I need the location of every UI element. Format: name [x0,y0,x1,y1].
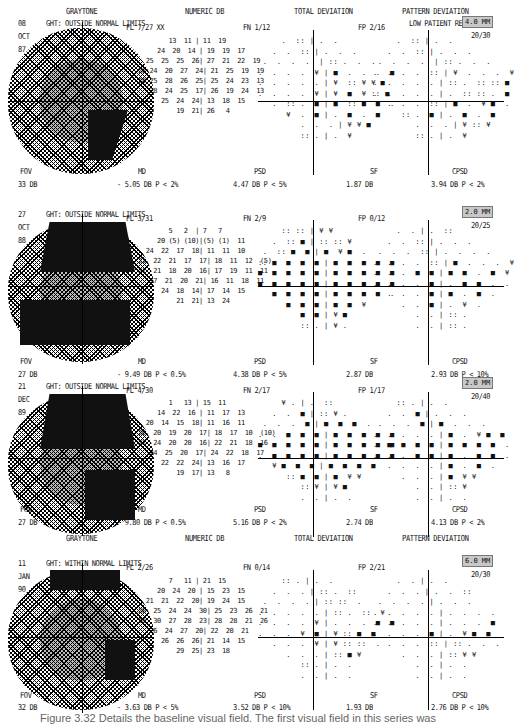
md-label: MD [138,357,146,366]
false-positives: FP 1/17 [358,386,385,395]
pattern-dev-vertical-axis [428,392,429,537]
graytone-scotoma-superior [50,570,120,590]
short-term-fluctuation: 2.74 DB [346,518,373,527]
horizontal-meridian [8,101,154,102]
fovea-label: FOV [20,505,31,514]
fovea-value: 27 DB [18,370,37,379]
sf-label: SF [370,357,378,366]
numeric-db-grid: 1 13 | 15 11 14 22 16 | 11 17 13 20 14 1… [138,398,275,478]
sf-label: SF [370,505,378,514]
fixation-losses: FL 3/31 [126,214,153,223]
pattern-std-deviation: 4.38 DB P < 5% [233,370,286,379]
cpsd-label: CPSD [452,357,467,366]
cpsd-label: CPSD [452,691,467,700]
pattern-deviation-grid: :: . | . . . . ■ | . . . . . . ■ | ■ . .… [373,398,510,503]
false-negatives: FN 2/9 [243,214,266,223]
short-term-fluctuation: 1.87 DB [346,180,373,189]
test-month: JAN [18,572,29,581]
graytone-scotoma-inferior [85,470,135,520]
test-day: 08 [18,19,26,28]
fixation-losses: FL 4/30 [126,386,153,395]
total-dev-vertical-axis [313,570,314,710]
test-year: 89 [18,408,26,417]
graytone-scotoma-superior [40,222,135,272]
total-dev-vertical-axis [313,220,314,365]
fovea-label: FOV [20,691,31,700]
graytone-header: GRAYTONE [66,7,97,17]
pattern-deviation-grid: . :: | . . . . :: | . . . . . . . | :: .… [373,36,514,141]
numeric-db-grid: 5 2 | 7 7 20 (5) (10)|(5) (1) 11 24 22 1… [138,226,272,306]
deviation-horizontal-axis [258,637,504,638]
numeric-db-header-2: NUMERIC DB [185,534,224,544]
numeric-db-grid: 7 11 | 21 15 20 24 20 | 15 23 15 21 21 2… [138,576,268,656]
short-term-fluctuation: 2.87 DB [346,370,373,379]
graytone-scotoma-superior [40,394,135,449]
horizontal-meridian [8,637,154,638]
pattern-std-deviation: 5.16 DB P < 2% [233,518,286,527]
md-label: MD [138,691,146,700]
fovea-label: FOV [20,357,31,366]
numeric-db-grid: 13 11 | 11 19 24 20 14 | 19 19 17 25 25 … [138,36,264,116]
graytone-header-2: GRAYTONE [66,534,97,544]
pupil-size: 2.0 MM [462,206,493,218]
test-month: OCT [18,32,29,41]
pattern-deviation-grid: . . | . . . . . | . . :: . . . . | . . .… [373,576,500,681]
graytone-scotoma-inferior [105,640,135,680]
psd-label: PSD [254,505,265,514]
vertical-meridian [82,386,83,536]
test-month: OCT [18,223,29,232]
test-day: 21 [18,382,26,391]
total-dev-vertical-axis [313,392,314,537]
pattern-dev-vertical-axis [428,30,429,175]
deviation-horizontal-axis [258,286,504,287]
cpsd-label: CPSD [452,505,467,514]
pupil-size: 2.0 MM [462,377,493,389]
mean-deviation: - 5.05 DB P < 2% [117,180,178,189]
fixation-losses: FL 7/27 XX [126,23,164,32]
test-year: 88 [18,236,26,245]
psd-label: PSD [254,691,265,700]
corrected-psd: 4.13 DB P < 2% [431,518,484,527]
pattern-deviation-header-2: PATTERN DEVIATION [402,534,469,544]
pattern-dev-vertical-axis [428,570,429,710]
cpsd-label: CPSD [452,167,467,176]
pupil-size: 6.0 MM [462,555,493,567]
horizontal-meridian [8,286,154,287]
false-negatives: FN 1/12 [243,23,270,32]
pattern-std-deviation: 4.47 DB P < 5% [233,180,286,189]
vertical-meridian [82,563,83,713]
psd-label: PSD [254,167,265,176]
sf-label: SF [370,691,378,700]
test-day: 11 [18,559,26,568]
horizontal-meridian [8,458,154,459]
total-deviation-header-2: TOTAL DEVIATION [294,534,353,544]
fovea-value: 27 DB [18,518,37,527]
fovea-label: FOV [20,167,31,176]
false-positives: FP 2/16 [358,23,385,32]
graytone-scotoma-inferior [20,300,130,345]
pattern-deviation-header: PATTERN DEVIATION [402,7,469,17]
test-day: 27 [18,210,26,219]
pattern-deviation-grid: . . | . :: . . :: | . . . . . . :: | . .… [373,226,514,331]
mean-deviation: - 9.80 DB P < 0.5% [117,518,186,527]
vertical-meridian [82,22,83,172]
pupil-size: 4.0 MM [462,16,493,28]
sf-label: SF [370,167,378,176]
fovea-value: 33 DB [18,180,37,189]
false-negatives: FN 2/17 [243,386,270,395]
test-month: DEC [18,395,29,404]
mean-deviation: - 9.49 DB P < 0.5% [117,370,186,379]
pattern-dev-vertical-axis [428,220,429,365]
fixation-losses: FL 2/26 [126,563,153,572]
false-negatives: FN 0/14 [243,563,270,572]
figure-caption: Figure 3.32 Details the baseline visual … [0,712,519,724]
psd-label: PSD [254,357,265,366]
md-label: MD [138,505,146,514]
false-positives: FP 0/12 [358,214,385,223]
total-deviation-header: TOTAL DEVIATION [294,7,353,17]
corrected-psd: 3.94 DB P < 2% [431,180,484,189]
vertical-meridian [82,214,83,364]
deviation-horizontal-axis [258,458,504,459]
deviation-horizontal-axis [258,101,504,102]
numeric-db-header: NUMERIC DB [185,7,224,17]
